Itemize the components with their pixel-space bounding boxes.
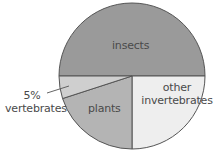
label-vertebrates-percent: 5%: [22, 90, 42, 102]
label-vertebrates: vertebrates: [5, 103, 67, 115]
pie-chart: [0, 0, 218, 150]
label-other-invertebrates-line1: other: [162, 82, 192, 94]
label-insects: insects: [112, 40, 149, 52]
pie-slices: [59, 3, 205, 149]
label-other-invertebrates-line2: invertebrates: [137, 95, 217, 107]
label-plants: plants: [88, 103, 121, 115]
